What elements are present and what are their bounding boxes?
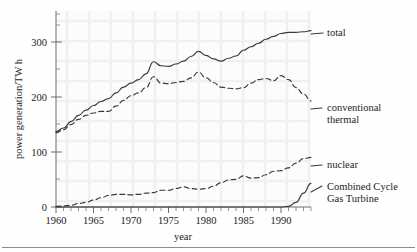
x-tick-label-1990: 1990 [271,215,292,226]
y-tick-label-200: 200 [31,92,47,103]
y-tick-label-0: 0 [42,202,47,213]
y-axis-title: power generation/TW h [13,58,24,159]
figure-container: 300 200 100 0 1960 1965 1970 1975 1980 1… [0,0,417,252]
x-axis-ticks [56,207,311,213]
series-label-total: total [327,27,346,38]
series-label-conventional-line1: conventional [327,102,381,113]
series-label-ccgt-line2: Gas Turbine [327,193,379,204]
series-label-nuclear: nuclear [327,159,358,170]
x-tick-label-1975: 1975 [158,215,179,226]
x-tick-label-1980: 1980 [196,215,217,226]
x-tick-label-1960: 1960 [46,215,67,226]
x-axis-title: year [174,231,193,242]
footer-divider [2,247,415,248]
x-tick-label-1985: 1985 [233,215,254,226]
x-tick-label-1970: 1970 [121,215,142,226]
series-label-ccgt-line1: Combined Cycle [327,181,398,192]
power-generation-line-chart: 300 200 100 0 1960 1965 1970 1975 1980 1… [0,0,417,252]
x-tick-label-1965: 1965 [83,215,104,226]
series-label-conventional-line2: thermal [327,114,359,125]
y-tick-label-300: 300 [31,37,47,48]
label-leader-lines [311,33,323,192]
y-tick-label-100: 100 [31,147,47,158]
